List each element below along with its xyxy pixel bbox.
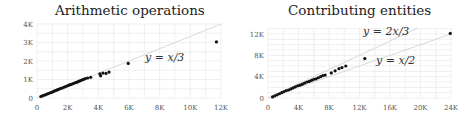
y-tick-label: 0: [260, 95, 264, 103]
x-tick-label: 0: [35, 104, 39, 112]
data-point: [104, 72, 107, 75]
data-point: [340, 66, 343, 69]
right-plot-area: 04K8K12K16K20K24K04K8K12K: [250, 28, 459, 112]
x-tick-label: 16K: [383, 104, 398, 112]
x-tick-label: 6K: [124, 104, 134, 112]
data-point: [363, 57, 366, 60]
data-point: [89, 76, 92, 79]
x-tick-label: 0: [266, 104, 270, 112]
data-point: [344, 64, 347, 67]
data-point: [324, 73, 327, 76]
x-tick-label: 4K: [294, 104, 304, 112]
y-tick-label: 12K: [250, 31, 265, 39]
y-tick-label: 0: [29, 95, 33, 103]
x-tick-label: 12K: [214, 104, 229, 112]
data-point: [101, 71, 104, 74]
charts-canvas: 02K4K6K8K10K12K01K2K3K4K 04K8K12K16K20K2…: [0, 0, 472, 118]
data-point: [107, 71, 110, 74]
data-point: [99, 74, 102, 77]
data-point: [337, 67, 340, 70]
x-tick-label: 8K: [155, 104, 165, 112]
y-tick-label: 4K: [254, 73, 264, 81]
y-tick-label: 4K: [23, 21, 33, 29]
y-tick-label: 2K: [23, 58, 33, 66]
x-tick-label: 12K: [352, 104, 367, 112]
right-reference-label-lower: y = x/2: [375, 54, 415, 67]
y-tick-label: 8K: [254, 52, 264, 60]
y-tick-label: 1K: [23, 76, 33, 84]
right-reference-label-upper: y = 2x/3: [362, 25, 409, 38]
y-tick-label: 3K: [23, 39, 33, 47]
left-plot-area: 02K4K6K8K10K12K01K2K3K4K: [23, 21, 229, 113]
data-point: [334, 69, 337, 72]
data-point: [330, 71, 333, 74]
data-point: [449, 32, 452, 35]
x-tick-label: 20K: [413, 104, 428, 112]
data-point: [127, 62, 130, 65]
left-reference-label: y = x/3: [144, 51, 184, 64]
data-point: [215, 40, 218, 43]
x-tick-label: 4K: [93, 104, 103, 112]
x-tick-label: 8K: [324, 104, 334, 112]
x-tick-label: 24K: [444, 104, 459, 112]
x-tick-label: 2K: [63, 104, 73, 112]
x-tick-label: 10K: [183, 104, 198, 112]
data-point: [86, 76, 89, 79]
